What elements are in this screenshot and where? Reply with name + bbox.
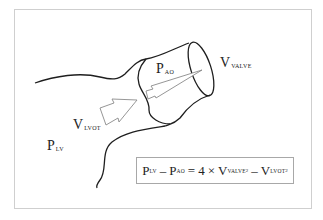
label-sub: VALVE	[231, 63, 252, 69]
lvot-flow-arrow	[100, 99, 137, 125]
label-sub: LVOT	[84, 125, 101, 131]
label-p-ao: PAO	[156, 62, 174, 76]
anatomy-drawing	[0, 0, 323, 220]
valve-orifice	[183, 39, 219, 98]
label-p-lv: PLV	[47, 139, 64, 153]
formula-minus: –	[160, 163, 167, 179]
formula-sub: AO	[176, 168, 184, 174]
label-sub: AO	[165, 69, 174, 75]
formula-p: P	[142, 163, 149, 179]
label-main: P	[156, 61, 164, 76]
formula-times: ×	[208, 163, 215, 179]
formula-sub: LV	[150, 168, 157, 174]
label-v-lvot: VLVOT	[73, 118, 101, 132]
formula-v: V	[218, 163, 227, 179]
formula-v: V	[261, 163, 270, 179]
label-main: P	[47, 138, 55, 153]
formula-sup: 2	[246, 168, 249, 173]
formula-sup: 2	[285, 168, 288, 173]
label-main: V	[73, 117, 83, 132]
label-sub: LV	[56, 146, 64, 152]
formula-coefficient: 4	[198, 163, 205, 179]
formula-sub: VALVE	[227, 168, 245, 174]
formula-p: P	[169, 163, 176, 179]
label-main: V	[220, 55, 230, 70]
formula-equals: =	[188, 163, 195, 179]
bernoulli-formula-box: PLV – PAO = 4 × VVALVE2 – VLVOT2	[136, 157, 294, 184]
formula-minus: –	[251, 163, 258, 179]
label-v-valve: VVALVE	[220, 56, 252, 70]
formula-sub: LVOT	[270, 168, 285, 174]
